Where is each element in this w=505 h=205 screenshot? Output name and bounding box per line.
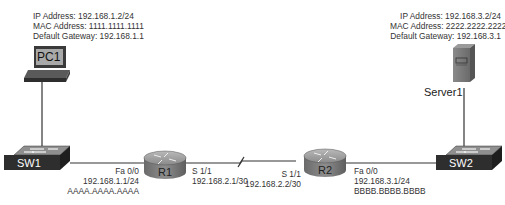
sw1-label: SW1 xyxy=(17,157,41,169)
server1-ip: IP Address: 192.168.3.2/24 xyxy=(390,11,501,21)
pc1-gateway: Default Gateway: 192.168.1.1 xyxy=(33,31,144,41)
r2-s11-info: S 1/1 192.168.2.2/30 xyxy=(240,169,301,189)
pc1-ip: IP Address: 192.168.1.2/24 xyxy=(33,11,144,21)
r2-fa00-mac: BBBB.BBBB.BBBB xyxy=(354,186,426,196)
server1-label: Server1 xyxy=(424,86,463,98)
network-topology-diagram: IP Address: 192.168.1.2/24 MAC Address: … xyxy=(0,0,505,205)
r2-s11-ip: 192.168.2.2/30 xyxy=(240,179,301,189)
r1-fa00-interface: Fa 0/0 xyxy=(62,166,139,176)
server1-gateway: Default Gateway: 192.168.3.1 xyxy=(390,31,501,41)
r1-label: R1 xyxy=(158,166,172,178)
r2-fa00-info: Fa 0/0 192.168.3.1/24 BBBB.BBBB.BBBB xyxy=(354,166,426,196)
server1-info: IP Address: 192.168.3.2/24 MAC Address: … xyxy=(390,11,501,41)
links xyxy=(42,82,464,167)
r2-s11-interface: S 1/1 xyxy=(240,169,301,179)
r2-fa00-interface: Fa 0/0 xyxy=(354,166,426,176)
r2-label: R2 xyxy=(318,164,332,176)
r1-fa00-ip: 192.168.1.1/24 xyxy=(62,176,139,186)
pc1-mac: MAC Address: 1111.1111.1111 xyxy=(33,21,144,31)
r2-fa00-ip: 192.168.3.1/24 xyxy=(354,176,426,186)
r1-fa00-mac: AAAA.AAAA.AAAA xyxy=(62,186,139,196)
sw2-label: SW2 xyxy=(449,157,473,169)
pc1-info: IP Address: 192.168.1.2/24 MAC Address: … xyxy=(33,11,144,41)
pc1-label: PC1 xyxy=(37,50,60,64)
r1-fa00-info: Fa 0/0 192.168.1.1/24 AAAA.AAAA.AAAA xyxy=(62,166,139,196)
server1-mac: MAC Address: 2222.2222.2222 xyxy=(390,21,501,31)
server1-icon[interactable] xyxy=(453,44,475,82)
